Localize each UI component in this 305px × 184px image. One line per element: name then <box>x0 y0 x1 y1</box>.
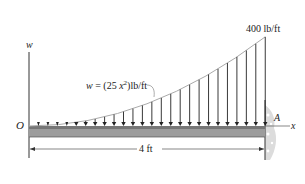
load-arrow-head <box>131 122 135 126</box>
load-arrow-head <box>244 122 248 126</box>
dimension-label: 4 ft <box>139 143 153 154</box>
fixed-wall-support <box>265 100 276 160</box>
load-arrow-head <box>225 122 229 126</box>
load-arrow-head <box>93 122 97 126</box>
distributed-load-beam-diagram: w x O A 400 lb/ft w = (25 x2)lb/ft 4 ft <box>0 0 305 184</box>
support-label: A <box>273 112 281 123</box>
load-arrow-head <box>187 122 191 126</box>
load-arrow-head <box>112 122 116 126</box>
load-arrow-head <box>159 122 163 126</box>
peak-load-label: 400 lb/ft <box>246 23 280 34</box>
load-arrow-head <box>56 122 59 126</box>
load-arrow-head <box>140 122 144 126</box>
load-arrow-head <box>150 122 154 126</box>
load-arrow-head <box>235 122 239 126</box>
load-arrow-head <box>206 122 210 126</box>
beam-top-edge <box>29 126 265 129</box>
load-arrow-head <box>216 122 220 126</box>
load-arrow-head <box>121 122 125 126</box>
load-arrow-head <box>74 122 78 126</box>
load-arrow-head <box>178 122 182 126</box>
x-axis-label: x <box>290 120 296 131</box>
load-function-label: w = (25 x2)lb/ft <box>86 79 147 92</box>
load-arrow-head <box>169 122 173 126</box>
origin-label: O <box>16 119 24 131</box>
load-arrow-head <box>84 122 88 126</box>
w-axis-label: w <box>26 39 33 50</box>
load-arrows <box>37 37 267 126</box>
load-arrow-head <box>102 122 106 126</box>
load-arrow-head <box>254 122 258 126</box>
label-leader-line <box>147 85 154 97</box>
load-arrow-head <box>197 122 201 126</box>
